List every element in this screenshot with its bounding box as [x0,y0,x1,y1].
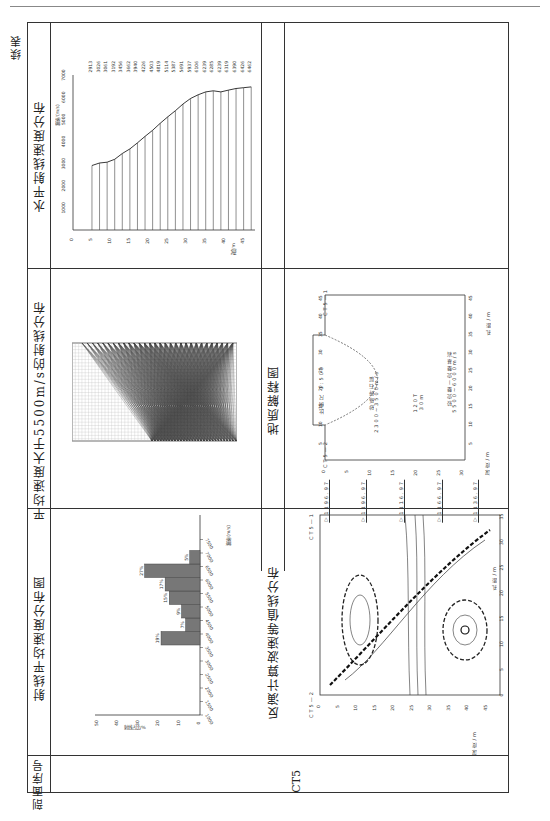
svg-text:40: 40 [468,313,473,319]
svg-text:17%: 17% [159,579,164,590]
svg-text:20: 20 [390,705,395,711]
svg-text:4226: 4226 [141,61,146,73]
row-divider-1 [27,268,509,269]
svg-text:30: 30 [183,238,188,244]
svg-text:6239: 6239 [217,61,222,73]
histogram-title: 射线平均速度分布图 [31,575,48,701]
velocity-contour-plot: 05101520253035404505101520253035 [315,510,505,750]
horizontal-velocity-title: 水平射线速度分布 [31,100,48,212]
svg-text:35: 35 [318,331,323,337]
svg-text:15: 15 [390,470,395,476]
svg-text:15: 15 [372,705,377,711]
svg-text:10: 10 [468,421,473,427]
svg-text:6462: 6462 [247,61,252,73]
svg-text:5: 5 [344,470,349,473]
geological-title: 地质解释图 [265,365,282,435]
row-header-label: 剖面序号 [31,758,47,810]
svg-text:30: 30 [499,539,504,545]
svg-text:10: 10 [176,720,181,726]
svg-text:5114: 5114 [164,61,169,73]
svg-text:35: 35 [446,705,451,711]
svg-text:4819: 4819 [156,61,161,73]
svg-text:3500: 3500 [204,646,214,659]
svg-text:6000: 6000 [204,578,214,591]
geo-scale-label: 比例尺 1:500 [317,365,324,414]
svg-text:7000: 7000 [61,69,66,81]
svg-text:0: 0 [69,238,74,241]
geological-diagram: 5510101515202025253030353540404545051015… [300,285,505,505]
svg-text:45: 45 [468,295,473,301]
svg-text:3192: 3192 [111,61,116,73]
svg-text:1500: 1500 [204,700,214,713]
svg-text:5: 5 [499,668,504,671]
svg-text:射线占比/%: 射线占比/% [124,724,147,730]
svg-text:35: 35 [499,514,504,520]
svg-text:5000: 5000 [61,113,66,125]
geo-layer1-velocity: 2300~3500m/s [373,370,379,433]
svg-text:40: 40 [221,238,226,244]
svg-text:25: 25 [499,565,504,571]
svg-text:45: 45 [483,705,488,711]
svg-text:0: 0 [196,721,201,724]
svg-text:10: 10 [318,421,323,427]
horizontal-velocity-chart: 2913302630613192345636623940422645034819… [55,55,260,255]
svg-text:7000: 7000 [204,551,214,564]
svg-text:6426: 6426 [240,61,245,73]
svg-text:5000: 5000 [204,605,214,618]
svg-text:5: 5 [468,442,473,445]
svg-text:3000: 3000 [61,158,66,170]
svg-text:19%: 19% [155,633,160,644]
svg-text:5500: 5500 [204,592,214,605]
contour-depth-axis-label: 深度/m [470,730,477,755]
column-divider-right [284,22,285,571]
svg-text:25: 25 [468,367,473,373]
svg-text:2000: 2000 [61,180,66,192]
svg-text:3000: 3000 [204,659,214,672]
svg-text:5: 5 [88,238,93,241]
ray-distribution-title: 平均速度大于5500m/s的射线分布 [31,300,48,520]
svg-text:5%: 5% [184,553,189,561]
svg-text:0: 0 [321,470,326,473]
svg-text:25: 25 [409,705,414,711]
svg-text:5: 5 [335,705,340,708]
svg-text:15: 15 [468,403,473,409]
svg-text:4500: 4500 [204,619,214,632]
svg-text:7500: 7500 [204,538,214,551]
svg-text:45: 45 [240,238,245,244]
geo-layer2-velocity: 5500~6000m/s [451,350,457,413]
svg-text:3662: 3662 [126,61,131,73]
svg-text:深度/m: 深度/m [230,243,237,255]
svg-text:30: 30 [427,705,432,711]
section-id: CT5 [290,770,303,793]
svg-text:波速/(m/s): 波速/(m/s) [225,525,232,547]
svg-text:0: 0 [316,705,321,708]
svg-text:4000: 4000 [61,136,66,148]
svg-text:10: 10 [499,641,504,647]
svg-text:3456: 3456 [118,61,123,73]
svg-text:3940: 3940 [133,61,138,73]
geo-boundary-note-bottom: 30m [418,393,424,410]
svg-text:6000: 6000 [61,91,66,103]
contour-distance-axis-label: 孔距/m [490,565,497,590]
geo-hole-left: CT5—2 [322,440,328,468]
svg-text:0: 0 [499,693,504,696]
continued-label: 续表 [9,34,25,60]
geo-distance-axis-label: 孔距/m [484,310,491,335]
svg-text:30: 30 [459,470,464,476]
running-header-rule [10,6,540,7]
svg-text:6239: 6239 [202,61,207,73]
svg-text:15: 15 [126,238,131,244]
svg-text:2000: 2000 [204,686,214,699]
row-divider-3 [27,755,509,756]
svg-text:30: 30 [318,349,323,355]
svg-text:5691: 5691 [179,61,184,73]
geo-hole-right: CT5—1 [322,288,328,316]
svg-text:1000: 1000 [204,713,214,726]
svg-text:6319: 6319 [224,61,229,73]
svg-text:20: 20 [468,385,473,391]
svg-text:50: 50 [94,720,99,726]
svg-text:20: 20 [413,470,418,476]
svg-text:3026: 3026 [96,61,101,73]
svg-text:35: 35 [468,331,473,337]
svg-text:1000: 1000 [61,202,66,214]
